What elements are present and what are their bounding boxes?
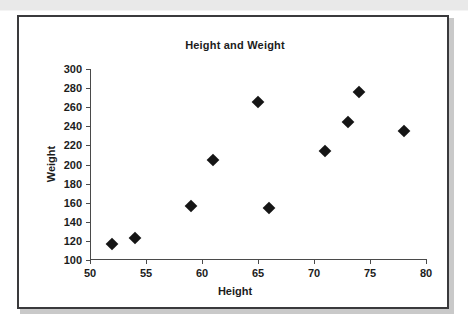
scatter-point	[207, 153, 220, 166]
scatter-point	[252, 96, 265, 109]
x-axis-tick-label: 55	[140, 267, 152, 279]
scatter-point	[184, 199, 197, 212]
y-axis-tick-label: 200	[64, 159, 82, 171]
y-axis-tick	[86, 145, 91, 146]
y-axis-tick-label: 220	[64, 139, 82, 151]
x-axis-tick-label: 80	[420, 267, 432, 279]
x-axis-tick	[90, 259, 91, 264]
chart-title: Height and Weight	[19, 39, 451, 51]
x-axis-tick	[314, 259, 315, 264]
scatter-point	[128, 232, 141, 245]
chart-figure: Height and Weight Weight 100120140160180…	[17, 15, 449, 309]
y-axis-tick-label: 180	[64, 178, 82, 190]
page-top-band-edge	[0, 10, 468, 11]
plot-area: 1001201401601802002202402602803005055606…	[90, 69, 426, 260]
x-axis-tick	[426, 259, 427, 264]
y-axis-tick	[86, 126, 91, 127]
page-top-band	[0, 0, 468, 10]
y-axis-tick-label: 260	[64, 101, 82, 113]
x-axis-tick-label: 75	[364, 267, 376, 279]
y-axis-tick	[86, 88, 91, 89]
y-axis-tick-label: 300	[64, 63, 82, 75]
scatter-point	[341, 116, 354, 129]
scatter-point	[352, 86, 365, 99]
y-axis-tick-label: 280	[64, 82, 82, 94]
scatter-point	[397, 125, 410, 138]
y-axis-tick-label: 160	[64, 197, 82, 209]
y-axis-tick	[86, 203, 91, 204]
screenshot-root: Height and Weight Weight 100120140160180…	[0, 0, 468, 332]
scatter-point	[106, 237, 119, 250]
y-axis-tick	[86, 184, 91, 185]
x-axis-tick	[202, 259, 203, 264]
x-axis-tick	[370, 259, 371, 264]
y-axis-tick	[86, 241, 91, 242]
y-axis-tick	[86, 107, 91, 108]
x-axis-tick	[258, 259, 259, 264]
y-axis-tick	[86, 69, 91, 70]
x-axis-tick-label: 65	[252, 267, 264, 279]
y-axis-tick-label: 140	[64, 216, 82, 228]
y-axis-tick	[86, 165, 91, 166]
y-axis-tick	[86, 222, 91, 223]
x-axis-tick-label: 50	[84, 267, 96, 279]
x-axis-tick-label: 60	[196, 267, 208, 279]
x-axis-title: Height	[19, 285, 451, 297]
scatter-point	[319, 145, 332, 158]
x-axis-tick	[146, 259, 147, 264]
scatter-point	[263, 202, 276, 215]
y-axis-tick-label: 120	[64, 235, 82, 247]
y-axis-tick-label: 100	[64, 254, 82, 266]
x-axis-tick-label: 70	[308, 267, 320, 279]
y-axis-title: Weight	[45, 146, 57, 182]
y-axis-tick-label: 240	[64, 120, 82, 132]
